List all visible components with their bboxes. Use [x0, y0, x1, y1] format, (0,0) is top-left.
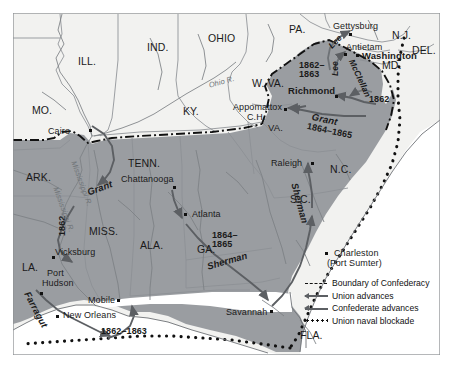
legend-label-union-advances: Union advances [332, 291, 394, 301]
city-label-richmond: Richmond [288, 86, 335, 96]
state-label-illinois: ILL. [78, 56, 96, 67]
year-label-virginia-1863: 1863 [299, 70, 319, 80]
state-label-new-jersey: N.J. [392, 30, 411, 41]
year-label-gulf-1862-1863: 1862–1863 [101, 327, 147, 336]
city-dot-charleston [325, 252, 328, 255]
legend-row-naval-blockade: Union naval blockade [302, 315, 438, 328]
city-label-port: Port [47, 269, 64, 278]
legend-label-confederate-advances: Confederate advances [332, 303, 418, 313]
city-label-charleston: Charleston [334, 249, 379, 258]
city-label-fort-sumter: (Fort Sumter) [327, 259, 382, 268]
state-label-ohio: OHIO [208, 33, 235, 44]
state-label-maryland: MD. [382, 60, 402, 71]
city-label-raleigh: Raleigh [271, 159, 302, 168]
city-label-cairo: Cairo [48, 127, 70, 136]
state-label-alabama: ALA. [140, 240, 163, 251]
arrow-confederate-icon [302, 302, 332, 314]
legend-row-confederate-advances: Confederate advances [302, 302, 438, 315]
state-label-mississippi: MISS. [89, 226, 118, 237]
city-dot-new-orleans [56, 315, 59, 318]
city-label-atlanta: Atlanta [192, 210, 221, 219]
state-label-missouri: MO. [32, 105, 52, 116]
legend-label-naval-blockade: Union naval blockade [332, 316, 414, 326]
legend-label-boundary: Boundary of Confederacy [332, 278, 429, 288]
city-dot-gettysburg [349, 33, 352, 36]
city-label-mobile: Mobile [88, 296, 115, 305]
year-label-peninsula-1862: 1862 [369, 95, 389, 104]
state-label-pennsylvania: PA. [289, 24, 305, 35]
map-legend: Boundary of Confederacy Union advances C… [302, 277, 438, 327]
state-label-florida: FLA. [300, 330, 323, 341]
city-dot-atlanta [184, 213, 187, 216]
dotted-line-icon [302, 315, 332, 327]
city-dot-port-hudson [40, 292, 43, 295]
city-label-vicksburg: Vicksburg [55, 248, 95, 257]
commander-label-lee-virginia: Lee [331, 61, 340, 76]
city-dot-savannah [270, 310, 273, 313]
city-dot-richmond [335, 95, 338, 98]
state-label-arkansas: ARK. [26, 172, 51, 183]
city-label-new-orleans: New Orleans [63, 311, 116, 320]
city-label-washington: Washington [362, 51, 417, 61]
state-label-virginia: VA. [268, 123, 283, 133]
dashed-line-icon [302, 277, 332, 289]
state-label-indiana: IND. [147, 42, 168, 53]
city-label-savannah: Savannah [226, 308, 267, 317]
state-label-north-carolina: N.C. [330, 164, 351, 175]
civil-war-map: ILL. IND. OHIO PA. N.J. DEL. MO. KY. W. … [0, 0, 457, 369]
city-label-appomattox-ch: C.H. [247, 113, 265, 122]
city-dot-vicksburg [52, 256, 55, 259]
state-label-tennessee: TENN. [128, 158, 160, 169]
legend-row-boundary: Boundary of Confederacy [302, 277, 438, 290]
city-dot-raleigh [311, 162, 314, 165]
city-dot-antietam [344, 53, 347, 56]
city-dot-cairo [89, 129, 92, 132]
city-dot-washington [356, 54, 359, 57]
arrow-union-icon [302, 290, 332, 302]
city-label-chattanooga: Chattanooga [121, 175, 174, 184]
state-label-kentucky: KY. [183, 106, 199, 117]
state-label-louisiana: LA. [22, 262, 38, 273]
city-dot-appomattox [284, 108, 287, 111]
state-label-west-virginia: W. VA. [252, 78, 284, 89]
city-label-hudson: Hudson [42, 279, 74, 288]
year-label-sherman-1865: 1865 [212, 240, 232, 250]
city-label-gettysburg: Gettysburg [333, 22, 378, 31]
city-dot-chattanooga [173, 186, 176, 189]
legend-row-union-advances: Union advances [302, 290, 438, 303]
city-label-appomattox: Appomattox [233, 103, 282, 112]
city-dot-mobile [117, 299, 120, 302]
